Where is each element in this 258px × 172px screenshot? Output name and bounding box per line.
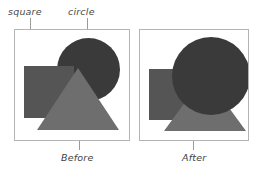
callout-label-square: square bbox=[8, 6, 42, 17]
before-triangle-shape bbox=[37, 68, 119, 130]
leader-line-before-caption bbox=[79, 141, 80, 150]
shape-order-figure: square circle Before After bbox=[0, 0, 258, 172]
callout-label-circle: circle bbox=[68, 6, 95, 17]
triangle-icon bbox=[37, 68, 119, 130]
caption-after: After bbox=[182, 152, 206, 163]
panel-after bbox=[139, 29, 249, 141]
caption-before: Before bbox=[61, 152, 93, 163]
after-circle-shape bbox=[172, 37, 249, 115]
leader-line-after-caption bbox=[193, 141, 194, 150]
panel-before bbox=[14, 29, 130, 141]
